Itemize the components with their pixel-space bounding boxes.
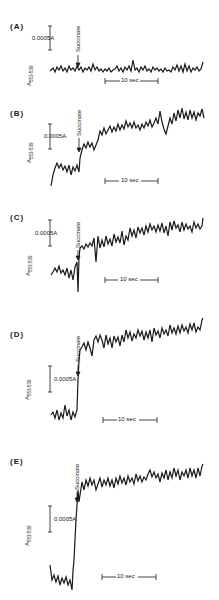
panel-label: (E)	[10, 457, 24, 466]
y-axis-label: A553-539	[24, 525, 32, 546]
time-scale-label: 10 sec	[117, 573, 135, 579]
panel-e: (E) 0.0005A A553-539 Succinate 10 sec	[0, 0, 219, 600]
succinate-annotation: Succinate	[74, 464, 80, 490]
scale-bar-label: 0.0005A	[54, 516, 76, 522]
